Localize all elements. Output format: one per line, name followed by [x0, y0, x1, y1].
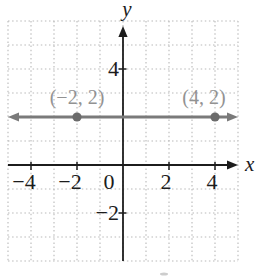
y-tick-label: −2	[96, 200, 119, 225]
x-tick-label: −2	[58, 169, 81, 194]
y-axis-label: y	[120, 0, 132, 21]
figure-background	[0, 0, 256, 280]
x-axis-label: x	[244, 152, 255, 176]
graph-figure: xy−4−20244−2(−2, 2)(4, 2)	[0, 0, 256, 280]
scan-artifact	[160, 273, 168, 276]
x-tick-label: 4	[207, 169, 218, 194]
point-label: (4, 2)	[182, 86, 225, 109]
x-tick-label: 2	[161, 169, 172, 194]
data-point	[210, 112, 219, 121]
x-tick-label: −4	[12, 169, 35, 194]
data-point	[72, 112, 81, 121]
point-label: (−2, 2)	[50, 86, 105, 109]
coordinate-plane: xy−4−20244−2(−2, 2)(4, 2)	[0, 0, 256, 280]
y-tick-label: 4	[108, 56, 119, 81]
x-tick-label: 0	[104, 169, 115, 194]
